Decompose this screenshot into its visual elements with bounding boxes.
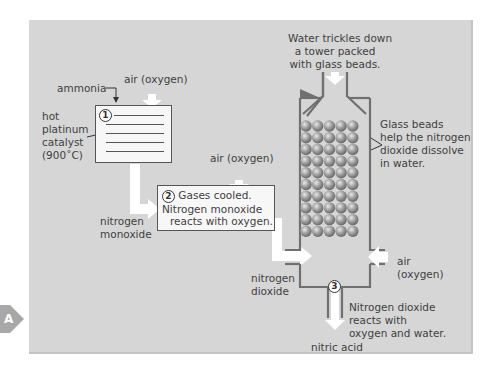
beads-label-2: help the nitrogen [380,131,471,144]
glass-bead [335,179,346,190]
glass-bead [312,226,323,237]
nitric-acid-arrow-icon [325,320,345,330]
glass-bead [300,226,311,237]
glass-bead [335,144,346,155]
glass-bead [324,144,335,155]
glass-bead [312,191,323,202]
tower-top-label-3: with glass beads. [288,58,382,71]
glass-bead [300,167,311,178]
glass-bead [347,120,358,131]
glass-bead [300,191,311,202]
glass-bead [335,155,346,166]
nitrogen-monoxide-label-2: monoxide [100,228,152,241]
air-label-3a: air [397,255,411,268]
step-2-badge: 2 [162,190,175,203]
glass-bead [312,167,323,178]
glass-bead [312,202,323,213]
glass-bead [347,155,358,166]
glass-bead [347,202,358,213]
ammonia-arrow-icon [113,97,119,103]
beads-label-4: in water. [380,157,425,170]
glass-bead [324,202,335,213]
glass-bead [312,155,323,166]
glass-bead [300,214,311,225]
glass-bead [312,144,323,155]
glass-bead [300,144,311,155]
beads-label-3: dioxide dissolve [380,144,464,157]
ammonia-label: ammonia [57,82,106,95]
air-label-1: air (oxygen) [124,73,188,86]
glass-bead [324,179,335,190]
catalyst-label-4: (900˚C) [42,149,83,162]
catalyst-label-1: hot [42,110,59,123]
glass-bead [312,120,323,131]
step2-text-1: Gases cooled. [178,189,251,201]
air-label-3b: (oxygen) [397,268,444,281]
glass-bead [347,132,358,143]
step3-text-3: oxygen and water. [349,327,446,340]
glass-beads [300,120,358,237]
glass-bead [324,132,335,143]
glass-bead [324,155,335,166]
tower-cap-flap [300,89,318,97]
glass-bead [347,167,358,178]
glass-bead [324,214,335,225]
tower-top-label-2: a tower packed [288,45,382,58]
catalyst-box: 1 [95,105,172,163]
beads-label-1: Glass beads [380,118,443,131]
nitrogen-dioxide-label-1: nitrogen [251,272,295,285]
step3-text-1: Nitrogen dioxide [349,301,435,314]
glass-bead [324,167,335,178]
glass-bead [335,132,346,143]
glass-bead [335,120,346,131]
glass-bead [300,155,311,166]
nitrogen-monoxide-label-1: nitrogen [100,215,144,228]
step2-text-2: Nitrogen monoxide [162,203,274,216]
glass-bead [312,179,323,190]
glass-bead [335,214,346,225]
glass-bead [324,191,335,202]
catalyst-label-2: platinum [42,123,89,136]
glass-bead [347,226,358,237]
step3-text-2: reacts with [349,314,407,327]
glass-bead [347,179,358,190]
glass-bead [300,120,311,131]
glass-bead [335,167,346,178]
glass-bead [300,132,311,143]
glass-bead [335,191,346,202]
nitric-acid-label: nitric acid [311,341,363,354]
water-arrow-icon [325,76,345,85]
glass-bead [347,144,358,155]
glass-bead [347,214,358,225]
flow-arrow-icon-2 [300,246,312,266]
glass-bead [312,132,323,143]
glass-bead [324,226,335,237]
step2-text-3: reacts with oxygen. [162,215,274,228]
step-3-badge: 3 [328,280,341,293]
air-label-2: air (oxygen) [210,152,274,165]
glass-bead [312,214,323,225]
glass-bead [300,202,311,213]
nitrogen-dioxide-label-2: dioxide [251,285,289,298]
glass-bead [324,120,335,131]
glass-bead [335,226,346,237]
catalyst-label-3: catalyst [42,136,83,149]
step-1-badge: 1 [99,109,112,122]
cooling-box: 2 Gases cooled. Nitrogen monoxide reacts… [157,185,275,231]
glass-bead [300,179,311,190]
glass-bead [347,191,358,202]
glass-bead [335,202,346,213]
tower-top-label-1: Water trickles down [288,32,382,45]
